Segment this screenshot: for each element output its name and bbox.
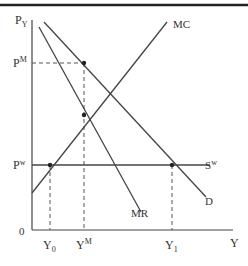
x-axis-label: Y (230, 236, 239, 250)
ym-label: YM (76, 237, 92, 252)
y-axis-label: PY (15, 13, 28, 29)
pm-label: PM (13, 55, 27, 70)
y0-point (48, 163, 52, 167)
monopoly-price-point (82, 61, 86, 65)
mc-label: MC (173, 18, 190, 30)
mr-curve (39, 27, 141, 212)
mc-mr-intersection-point (82, 113, 86, 117)
y1-label: Y1 (165, 238, 178, 254)
mr-label: MR (131, 207, 149, 219)
monopoly-diagram: PY Y 0 PM Pw Y0 YM Y1 MC MR D Sw (0, 0, 248, 266)
world-supply-label: Sw (205, 158, 217, 171)
origin-label: 0 (19, 225, 25, 237)
pw-label: Pw (13, 158, 26, 172)
mc-curve (32, 22, 167, 193)
y1-point (170, 163, 174, 167)
y0-label: Y0 (43, 238, 56, 254)
demand-label: D (205, 195, 213, 207)
demand-curve (44, 22, 206, 197)
